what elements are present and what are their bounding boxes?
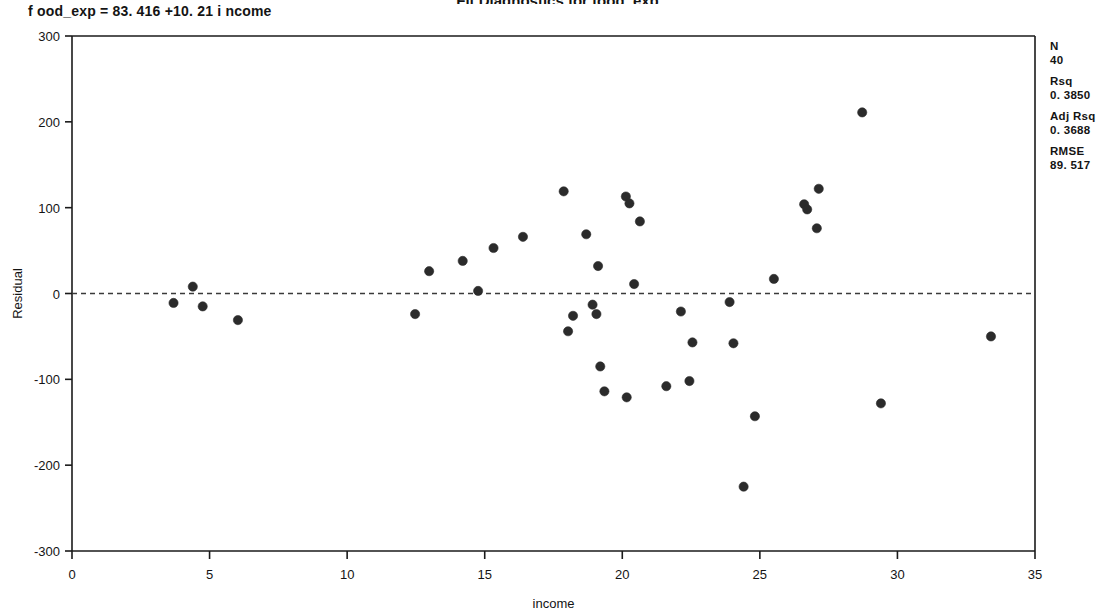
svg-text:-100: -100 xyxy=(34,372,60,387)
svg-text:-300: -300 xyxy=(34,544,60,559)
svg-text:0: 0 xyxy=(68,567,75,582)
svg-text:25: 25 xyxy=(753,567,767,582)
stat-rsq-value: 0. 3850 xyxy=(1050,89,1114,103)
stat-rmse-label: RMSE xyxy=(1050,145,1114,159)
stat-rmse-value: 89. 517 xyxy=(1050,159,1114,173)
data-point xyxy=(592,310,601,319)
svg-text:100: 100 xyxy=(38,201,60,216)
data-point xyxy=(803,205,812,214)
data-point xyxy=(812,224,821,233)
stat-adj-rsq-value: 0. 3688 xyxy=(1050,124,1114,138)
data-point xyxy=(876,399,885,408)
data-point xyxy=(233,316,242,325)
svg-text:0: 0 xyxy=(53,287,60,302)
data-point xyxy=(588,300,597,309)
svg-text:Residual: Residual xyxy=(10,268,25,319)
stat-rsq: Rsq 0. 3850 xyxy=(1050,75,1114,102)
data-point xyxy=(188,282,197,291)
data-point xyxy=(630,279,639,288)
data-point xyxy=(425,267,434,276)
svg-text:10: 10 xyxy=(340,567,354,582)
data-point xyxy=(676,307,685,316)
stat-rsq-label: Rsq xyxy=(1050,75,1114,89)
data-point xyxy=(625,199,634,208)
svg-text:income: income xyxy=(533,596,575,611)
data-point xyxy=(739,482,748,491)
stat-n: N 40 xyxy=(1050,40,1114,67)
data-point xyxy=(593,261,602,270)
data-point xyxy=(729,339,738,348)
data-point xyxy=(563,327,572,336)
data-point xyxy=(769,274,778,283)
stat-adj-rsq-label: Adj Rsq xyxy=(1050,110,1114,124)
data-point xyxy=(169,298,178,307)
data-point xyxy=(198,302,207,311)
svg-text:30: 30 xyxy=(890,567,904,582)
data-point xyxy=(600,387,609,396)
data-point xyxy=(582,230,591,239)
svg-text:300: 300 xyxy=(38,29,60,44)
svg-text:5: 5 xyxy=(206,567,213,582)
svg-text:20: 20 xyxy=(615,567,629,582)
data-point xyxy=(411,310,420,319)
data-point xyxy=(750,412,759,421)
fit-statistics-panel: N 40 Rsq 0. 3850 Adj Rsq 0. 3688 RMSE 89… xyxy=(1050,40,1114,181)
stat-n-value: 40 xyxy=(1050,54,1114,68)
data-point xyxy=(458,256,467,265)
data-point xyxy=(635,217,644,226)
svg-text:-200: -200 xyxy=(34,458,60,473)
data-point xyxy=(474,286,483,295)
stat-adj-rsq: Adj Rsq 0. 3688 xyxy=(1050,110,1114,137)
data-point xyxy=(489,243,498,252)
axes-layer xyxy=(65,36,1035,559)
svg-text:15: 15 xyxy=(477,567,491,582)
data-point xyxy=(518,232,527,241)
data-point xyxy=(688,338,697,347)
axis-labels-layer: 3002001000-100-200-30005101520253035inco… xyxy=(10,29,1042,611)
data-point xyxy=(559,187,568,196)
data-point xyxy=(725,297,734,306)
data-point xyxy=(596,362,605,371)
stat-n-label: N xyxy=(1050,40,1114,54)
residual-plot-panel: Fit Diagnostics for food_exp f ood_exp =… xyxy=(0,0,1115,614)
scatter-plot-svg: 3002001000-100-200-30005101520253035inco… xyxy=(0,0,1115,614)
svg-text:200: 200 xyxy=(38,115,60,130)
data-point xyxy=(685,376,694,385)
stat-rmse: RMSE 89. 517 xyxy=(1050,145,1114,172)
data-point xyxy=(662,382,671,391)
data-point xyxy=(814,184,823,193)
data-point xyxy=(568,311,577,320)
data-point xyxy=(986,332,995,341)
svg-text:35: 35 xyxy=(1028,567,1042,582)
data-point xyxy=(858,108,867,117)
data-points-layer xyxy=(169,108,996,491)
data-point xyxy=(622,393,631,402)
